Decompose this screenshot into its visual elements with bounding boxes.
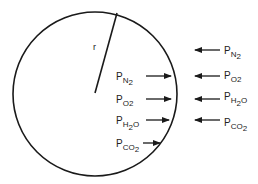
bubble-diagram: r PN2 PO2 PH2O PCO2 PN2 PO2 PH2O PCO2	[0, 0, 258, 184]
svg-text:PN2: PN2	[224, 45, 241, 61]
svg-text:PO2: PO2	[116, 94, 134, 108]
radius-line	[95, 13, 117, 93]
svg-text:PH2O: PH2O	[224, 91, 247, 108]
inside-po2: PO2	[116, 94, 171, 108]
svg-text:PCO2: PCO2	[116, 138, 140, 154]
radius-label: r	[93, 42, 96, 52]
outside-po2: PO2	[195, 70, 242, 84]
svg-text:PH2O: PH2O	[116, 115, 139, 132]
inside-ph2o: PH2O	[116, 115, 169, 132]
svg-text:PN2: PN2	[116, 71, 133, 87]
bubble-circle	[13, 12, 177, 176]
svg-text:PCO2: PCO2	[224, 117, 248, 133]
outside-pn2: PN2	[195, 45, 241, 61]
outside-ph2o: PH2O	[195, 91, 247, 108]
svg-text:PO2: PO2	[224, 70, 242, 84]
inside-pn2: PN2	[116, 71, 171, 87]
outside-pco2: PCO2	[195, 117, 248, 133]
